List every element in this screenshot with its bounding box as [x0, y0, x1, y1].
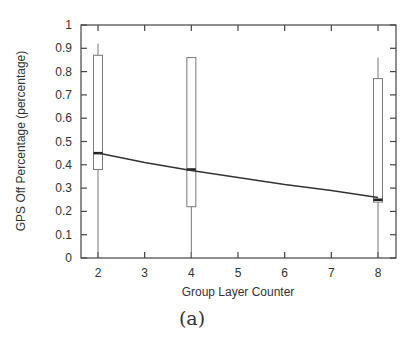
box-x-2 — [94, 44, 103, 258]
x-axis-ticks: 2345678 — [95, 25, 382, 280]
figure-caption: (a) — [0, 307, 414, 329]
y-axis-title: GPS Off Percentage (percentage) — [14, 51, 28, 232]
box-series — [94, 44, 383, 258]
y-tick-label: 0.3 — [55, 181, 72, 195]
y-tick-label: 0.5 — [55, 135, 72, 149]
y-tick-label: 0.6 — [55, 111, 72, 125]
x-tick-label: 2 — [95, 266, 102, 280]
y-tick-label: 0.7 — [55, 88, 72, 102]
trend-line — [98, 153, 378, 197]
box-x-8 — [374, 58, 383, 258]
y-tick-label: 0.2 — [55, 204, 72, 218]
x-tick-label: 3 — [141, 266, 148, 280]
plot-frame — [81, 25, 396, 258]
x-tick-label: 6 — [281, 266, 288, 280]
caption-text: (a) — [179, 307, 205, 329]
x-axis-title: Group Layer Counter — [182, 285, 295, 299]
x-tick-label: 7 — [328, 266, 335, 280]
y-tick-label: 1 — [65, 18, 72, 32]
y-tick-label: 0.8 — [55, 65, 72, 79]
x-tick-label: 5 — [235, 266, 242, 280]
y-tick-label: 0.9 — [55, 41, 72, 55]
x-tick-label: 8 — [375, 266, 382, 280]
y-tick-label: 0.1 — [55, 228, 72, 242]
y-axis-ticks: 00.10.20.30.40.50.60.70.80.91 — [55, 18, 396, 265]
x-tick-label: 4 — [188, 266, 195, 280]
y-tick-label: 0.4 — [55, 158, 72, 172]
iqr-box — [187, 58, 196, 207]
iqr-box — [374, 79, 383, 202]
y-tick-label: 0 — [65, 251, 72, 265]
box-plot-chart: 00.10.20.30.40.50.60.70.80.91 2345678 Gr… — [0, 0, 414, 300]
box-x-4 — [187, 58, 196, 258]
